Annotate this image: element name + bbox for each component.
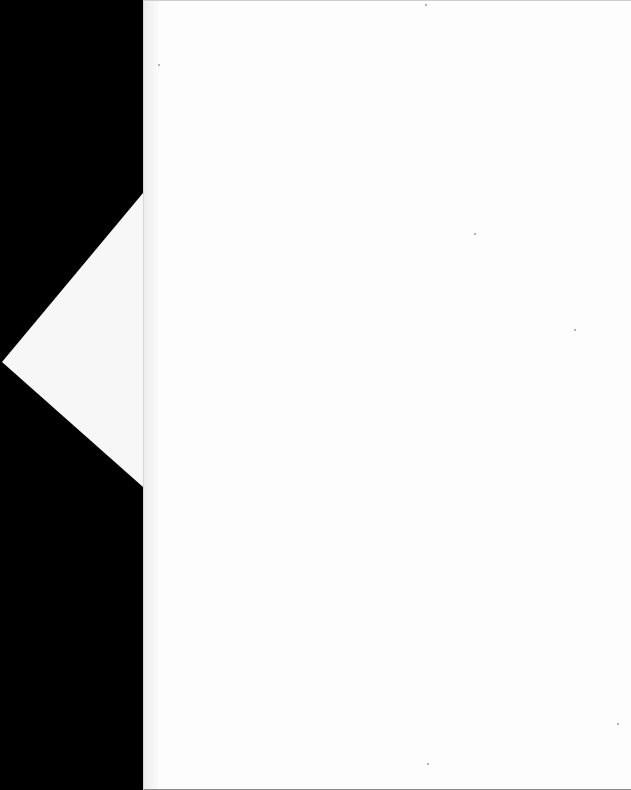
scan-speck xyxy=(425,4,427,6)
page-content xyxy=(144,1,631,789)
scan-speck xyxy=(617,723,619,725)
scan-speck xyxy=(474,233,476,235)
scan-speck xyxy=(427,763,429,765)
scan-speck xyxy=(574,329,576,331)
folded-corner-flap xyxy=(0,0,150,790)
scan-speck xyxy=(158,64,160,66)
scanned-page xyxy=(143,0,631,790)
